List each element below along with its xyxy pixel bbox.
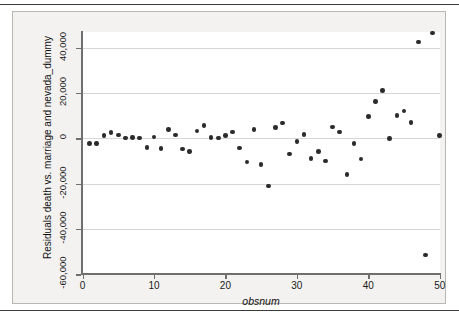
x-tick-mark: [297, 274, 298, 279]
scatter-point: [316, 149, 321, 154]
scatter-point: [209, 135, 214, 140]
scatter-point: [252, 127, 257, 132]
gridline-y--40000: [82, 229, 440, 230]
scatter-point: [309, 156, 314, 161]
x-tick-label: 0: [63, 280, 103, 291]
screenshot-root: 40,00020,0000-20,000-40,000-60,000 01020…: [0, 0, 459, 322]
scatter-point: [245, 160, 250, 165]
x-tick-label: 30: [277, 280, 317, 291]
scatter-point: [223, 133, 228, 138]
scatter-point: [145, 145, 150, 150]
y-tick-label: -60,000: [57, 247, 68, 299]
scatter-point: [273, 125, 278, 130]
scatter-point: [102, 133, 107, 138]
scatter-point: [280, 121, 285, 126]
scatter-point: [287, 152, 292, 157]
y-tick-mark: [76, 93, 81, 94]
scatter-point: [387, 136, 392, 141]
graph-card: 40,00020,0000-20,000-40,000-60,000 01020…: [12, 11, 446, 304]
y-tick-label: -20,000: [57, 156, 68, 208]
scatter-point: [130, 135, 135, 140]
scatter-point: [195, 129, 200, 134]
scatter-point: [430, 31, 435, 36]
y-tick-mark: [76, 274, 81, 275]
scatter-point: [259, 162, 264, 167]
scatter-point: [352, 141, 357, 146]
x-tick-mark: [440, 274, 441, 279]
x-tick-label: 50: [420, 280, 459, 291]
y-tick-label: 0: [57, 111, 68, 163]
scatter-point: [116, 133, 121, 138]
scatter-point: [180, 147, 185, 152]
y-tick-label: 40,000: [57, 20, 68, 72]
x-axis-title: obsnum: [82, 295, 440, 307]
scatter-point: [345, 172, 350, 177]
x-tick-label: 40: [348, 280, 388, 291]
y-tick-mark: [76, 48, 81, 49]
x-tick-mark: [83, 274, 84, 279]
gridline-y-40000: [82, 48, 440, 49]
scatter-point: [359, 157, 364, 162]
x-tick-label: 20: [205, 280, 245, 291]
scatter-point: [230, 130, 235, 135]
scatter-point: [187, 149, 192, 154]
scatter-point: [416, 40, 421, 45]
scatter-point: [166, 127, 171, 132]
scatter-point: [202, 123, 207, 128]
scatter-point: [216, 136, 221, 141]
plot-canvas: [82, 32, 440, 273]
scatter-point: [123, 136, 128, 141]
scatter-point: [237, 146, 242, 151]
scatter-point: [423, 253, 428, 258]
scatter-point: [173, 133, 178, 138]
x-tick-label: 10: [134, 280, 174, 291]
scatter-point: [137, 136, 142, 141]
x-axis-line: [81, 273, 441, 275]
x-tick-mark: [154, 274, 155, 279]
page-rule-bottom: [0, 310, 459, 311]
scatter-point: [87, 141, 92, 146]
scatter-point: [323, 159, 328, 164]
y-tick-mark: [76, 229, 81, 230]
scatter-point: [395, 113, 400, 118]
x-tick-mark: [368, 274, 369, 279]
scatter-point: [380, 88, 385, 93]
y-axis-title: Residuals death vs. marriage and nevada_…: [42, 28, 53, 268]
gridline-y--20000: [82, 184, 440, 185]
scatter-point: [373, 99, 378, 104]
scatter-point: [159, 146, 164, 151]
scatter-point: [295, 139, 300, 144]
scatter-point: [337, 130, 342, 135]
y-axis-line: [81, 31, 83, 274]
page-rule-top: [0, 4, 459, 5]
scatter-point: [330, 125, 335, 130]
scatter-point: [409, 120, 414, 125]
scatter-point: [402, 109, 407, 114]
gridline-y-0: [82, 138, 440, 139]
scatter-point: [266, 184, 271, 189]
x-tick-mark: [225, 274, 226, 279]
scatter-point: [437, 133, 442, 138]
scatter-point: [366, 114, 371, 119]
scatter-point: [94, 141, 99, 146]
scatter-point: [109, 130, 114, 135]
gridline-y-20000: [82, 93, 440, 94]
y-tick-mark: [76, 184, 81, 185]
y-tick-mark: [76, 138, 81, 139]
scatter-point: [302, 132, 307, 137]
